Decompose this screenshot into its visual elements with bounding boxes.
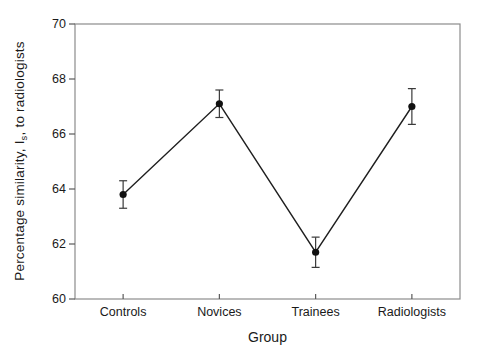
x-tick-label: Trainees [292, 305, 340, 319]
x-tick-label: Controls [100, 305, 147, 319]
y-tick-label: 66 [52, 127, 66, 141]
y-tick-label: 68 [52, 72, 66, 86]
data-line [123, 104, 412, 253]
chart-figure: Percentage similarity, Is, to radiologis… [0, 0, 485, 359]
x-axis-title: Group [75, 329, 460, 345]
data-point [408, 103, 415, 110]
data-point [120, 191, 127, 198]
line-chart-plot: 606264666870ControlsNovicesTraineesRadio… [0, 0, 485, 359]
data-point [216, 100, 223, 107]
y-tick-label: 62 [52, 237, 66, 251]
data-point [312, 249, 319, 256]
y-tick-label: 60 [52, 292, 66, 306]
plot-frame [75, 24, 460, 299]
x-tick-label: Novices [197, 305, 241, 319]
y-tick-label: 64 [52, 182, 66, 196]
x-tick-label: Radiologists [378, 305, 446, 319]
y-tick-label: 70 [52, 17, 66, 31]
